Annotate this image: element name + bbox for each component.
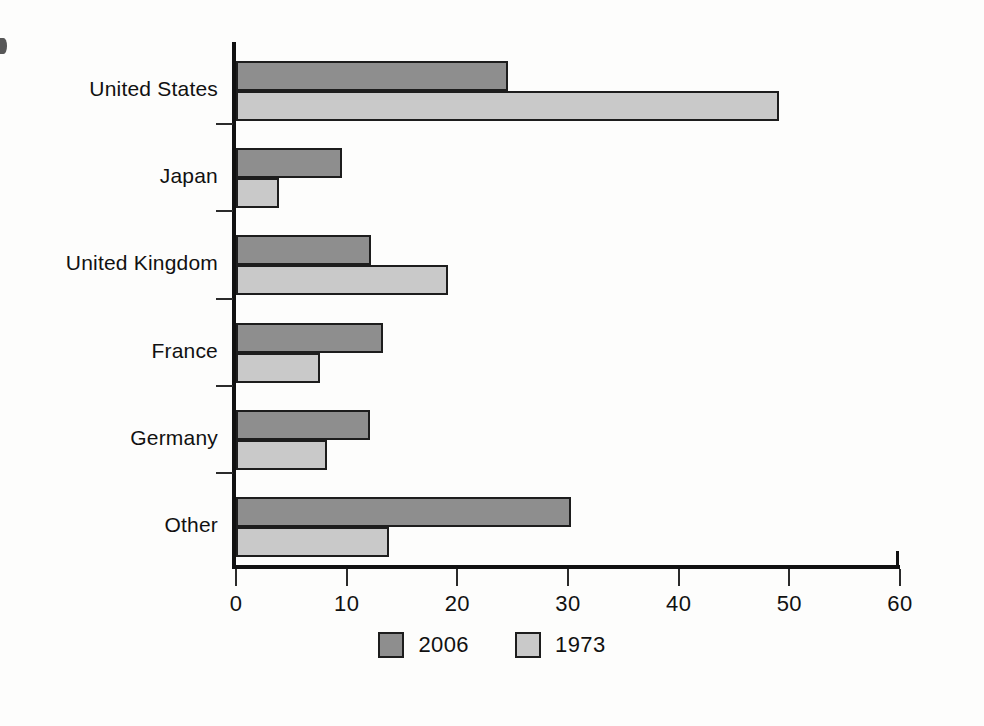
x-axis-tick bbox=[899, 569, 901, 586]
x-axis-tick-label: 20 bbox=[427, 591, 487, 617]
legend-item-2006[interactable]: 2006 bbox=[378, 632, 469, 658]
x-axis-tick bbox=[678, 569, 680, 586]
bar-1973-united-kingdom bbox=[236, 265, 448, 295]
legend-label-2006: 2006 bbox=[418, 632, 469, 658]
legend-label-1973: 1973 bbox=[555, 632, 606, 658]
y-axis-tick bbox=[216, 298, 233, 300]
bar-2006-united-kingdom bbox=[236, 235, 371, 265]
x-axis-tick bbox=[235, 569, 237, 586]
scan-artifact bbox=[0, 38, 7, 54]
category-label-united-states: United States bbox=[89, 77, 218, 101]
category-label-united-kingdom: United Kingdom bbox=[66, 251, 218, 275]
bar-1973-other bbox=[236, 527, 389, 557]
legend-swatch-icon-1973 bbox=[515, 632, 541, 658]
x-axis-endcap bbox=[896, 551, 899, 569]
plot-area: 0102030405060 bbox=[236, 42, 900, 565]
bar-1973-france bbox=[236, 353, 320, 383]
bar-2006-united-states bbox=[236, 61, 508, 91]
legend-item-1973[interactable]: 1973 bbox=[515, 632, 606, 658]
y-axis-tick bbox=[216, 123, 233, 125]
x-axis-tick bbox=[346, 569, 348, 586]
bar-1973-united-states bbox=[236, 91, 779, 121]
x-axis-tick-label: 40 bbox=[649, 591, 709, 617]
legend-swatch-icon-2006 bbox=[378, 632, 404, 658]
bar-1973-japan bbox=[236, 178, 279, 208]
x-axis-tick-label: 10 bbox=[317, 591, 377, 617]
bar-2006-germany bbox=[236, 410, 370, 440]
category-label-germany: Germany bbox=[130, 426, 218, 450]
y-axis-tick bbox=[216, 472, 233, 474]
x-axis-tick bbox=[788, 569, 790, 586]
x-axis-line bbox=[232, 565, 900, 569]
bar-2006-japan bbox=[236, 148, 342, 178]
y-axis-tick bbox=[216, 210, 233, 212]
x-axis-tick-label: 0 bbox=[206, 591, 266, 617]
x-axis-tick bbox=[567, 569, 569, 586]
x-axis-tick-label: 50 bbox=[759, 591, 819, 617]
category-label-japan: Japan bbox=[160, 164, 218, 188]
x-axis-tick-label: 60 bbox=[870, 591, 930, 617]
category-label-other: Other bbox=[164, 513, 218, 537]
bar-1973-germany bbox=[236, 440, 327, 470]
x-axis-tick bbox=[456, 569, 458, 586]
bar-2006-france bbox=[236, 323, 383, 353]
chart-page: United StatesJapanUnited KingdomFranceGe… bbox=[0, 0, 984, 726]
y-axis-tick bbox=[216, 385, 233, 387]
bar-2006-other bbox=[236, 497, 571, 527]
category-label-france: France bbox=[151, 339, 218, 363]
chart-legend: 2006 1973 bbox=[0, 632, 984, 658]
x-axis-tick-label: 30 bbox=[538, 591, 598, 617]
